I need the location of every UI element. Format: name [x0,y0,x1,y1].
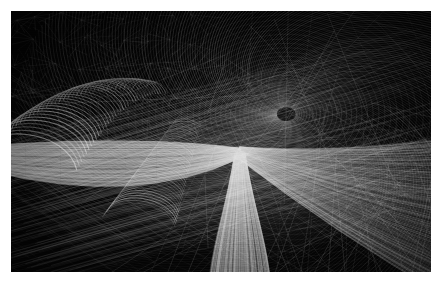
artwork-page [0,0,442,284]
artwork-canvas [11,11,431,272]
generative-line-art [11,11,431,272]
